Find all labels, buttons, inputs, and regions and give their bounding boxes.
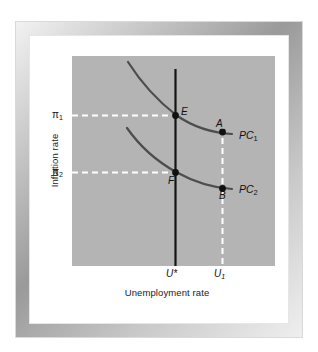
point-label-B: B [219, 190, 226, 201]
frame-inner-panel: Inflation rate [29, 35, 289, 324]
x-axis-title: Unemployment rate [62, 287, 272, 298]
figure-root: Inflation rate π1 π2 U* U1 E A F B PC1 P… [0, 0, 318, 352]
x-tick-u-star: U* [166, 268, 177, 279]
point-label-F: F [168, 175, 174, 186]
x-tick-u1: U1 [214, 268, 225, 279]
y-tick-pi2: π2 [52, 166, 63, 177]
point-label-A: A [216, 118, 223, 129]
y-tick-pi1: π1 [52, 109, 63, 120]
point-label-E: E [181, 106, 188, 117]
plot-area [72, 56, 275, 266]
y-axis-title: Inflation rate [49, 106, 60, 216]
curve-label-pc1: PC1 [239, 129, 258, 141]
curve-label-pc2: PC2 [239, 183, 258, 195]
